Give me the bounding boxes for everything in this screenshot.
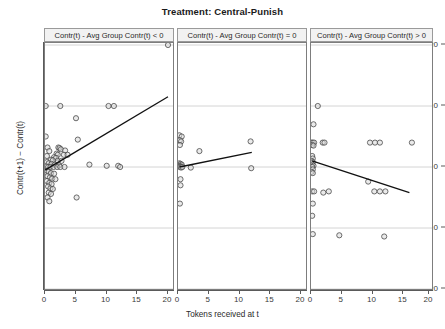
x-tick-label: 0 (308, 295, 312, 304)
y-tick-mark (441, 288, 445, 289)
x-tick-mark (75, 290, 76, 294)
x-axis: 0 5 10 15 20 (310, 290, 433, 306)
y-tick-mark (441, 166, 445, 167)
y-axis-title: Contr(t+1) − Contr(t) (16, 88, 25, 228)
y-tick-label: 0 (434, 162, 438, 171)
x-axis: 0 5 10 15 20 (177, 290, 307, 306)
x-tick-mark (428, 290, 429, 294)
scatter-points (311, 103, 415, 239)
figure-scatter-facets: Treatment: Central-Punish Contr(t+1) − C… (0, 0, 445, 329)
x-tick-label: 20 (296, 295, 305, 304)
x-tick-mark (269, 290, 270, 294)
plot-area (310, 42, 433, 290)
x-tick-label: 10 (367, 295, 376, 304)
panel-strip-label: Contr(t) - Avg Group Contr(t) = 0 (177, 28, 307, 42)
x-tick-mark (136, 290, 137, 294)
x-tick-mark (341, 290, 342, 294)
x-tick-label: 20 (424, 295, 433, 304)
regression-line (180, 152, 252, 167)
x-tick-mark (44, 290, 45, 294)
gridlines (178, 45, 307, 289)
y-tick-mark (441, 44, 445, 45)
x-tick-label: 15 (132, 295, 141, 304)
x-axis-line (177, 290, 307, 291)
panel-strip-label: Contr(t) - Avg Group Contr(t) < 0 (44, 28, 174, 42)
plot-area (177, 42, 307, 290)
x-axis-title: Tokens received at t (0, 310, 445, 319)
x-tick-mark (300, 290, 301, 294)
plot-svg (45, 43, 174, 290)
x-tick-mark (167, 290, 168, 294)
x-axis: 0 5 10 15 20 (44, 290, 174, 306)
plot-area (44, 42, 174, 290)
plot-svg (178, 43, 307, 290)
regression-line (312, 161, 409, 193)
x-tick-mark (402, 290, 403, 294)
x-tick-label: 15 (398, 295, 407, 304)
x-tick-label: 10 (101, 295, 110, 304)
x-axis-line (44, 290, 174, 291)
y-axis-title-wrap: Contr(t+1) − Contr(t) (4, 28, 18, 288)
plot-svg (311, 43, 433, 290)
x-tick-label: 0 (175, 295, 179, 304)
x-tick-label: 20 (163, 295, 172, 304)
x-tick-label: 5 (73, 295, 77, 304)
y-axis: Contr(t+1) − Contr(t) (0, 0, 44, 329)
figure-title: Treatment: Central-Punish (0, 6, 445, 17)
x-tick-label: 5 (206, 295, 210, 304)
scatter-points (45, 43, 171, 204)
x-tick-mark (177, 290, 178, 294)
x-tick-mark (310, 290, 311, 294)
scatter-points (178, 133, 254, 206)
x-tick-label: 10 (234, 295, 243, 304)
x-tick-mark (239, 290, 240, 294)
x-tick-label: 0 (42, 295, 46, 304)
y-tick-mark (441, 227, 445, 228)
panel-strip-label: Contr(t) - Avg Group Contr(t) > 0 (310, 28, 433, 42)
x-tick-label: 15 (265, 295, 274, 304)
x-tick-label: 5 (339, 295, 343, 304)
y-tick-mark (441, 105, 445, 106)
x-tick-mark (208, 290, 209, 294)
x-tick-mark (372, 290, 373, 294)
x-tick-mark (106, 290, 107, 294)
